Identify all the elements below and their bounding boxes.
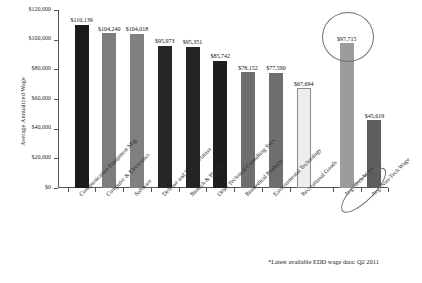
- y-axis-title: Average Annualized Wage: [19, 42, 26, 182]
- x-axis-tick: [361, 188, 362, 192]
- footnote: *Latest available EDD wage data: Q2 2011: [268, 258, 379, 265]
- bar-value-label: $95,351: [183, 39, 203, 45]
- bar-value-label: $104,018: [126, 26, 149, 32]
- y-axis-tick-label: $20,000: [32, 154, 52, 160]
- x-axis-tick: [262, 188, 263, 192]
- bar-value-label: $104,240: [98, 26, 121, 32]
- bar-value-label: $95,973: [155, 38, 175, 44]
- y-axis-tick: $120,000: [54, 10, 58, 11]
- x-axis-tick: [68, 188, 69, 192]
- y-axis-tick: $0: [54, 188, 58, 189]
- y-axis-tick-label: $100,000: [29, 35, 52, 41]
- y-axis-tick: $80,000: [54, 69, 58, 70]
- x-axis-tick: [290, 188, 291, 192]
- wage-bar-chart: Average Annualized Wage $0$20,000$40,000…: [0, 0, 422, 283]
- bar: $95,973: [158, 46, 172, 188]
- bar-value-label: $45,619: [365, 113, 385, 119]
- bar-value-label: $77,590: [266, 65, 286, 71]
- x-axis-tick: [388, 188, 389, 192]
- bar-value-label: $97,715: [337, 36, 357, 42]
- y-axis-tick-label: $120,000: [29, 6, 52, 12]
- x-axis-tick: [206, 188, 207, 192]
- bar: $45,619: [367, 120, 381, 188]
- bar: $97,715: [340, 43, 354, 188]
- bar-value-label: $110,139: [70, 17, 92, 23]
- x-axis-tick: [95, 188, 96, 192]
- x-axis-tick: [123, 188, 124, 192]
- x-axis-tick: [333, 188, 334, 192]
- bar-value-label: $85,742: [211, 53, 231, 59]
- y-axis-tick: $100,000: [54, 40, 58, 41]
- y-axis-tick: $40,000: [54, 129, 58, 130]
- x-axis-tick: [151, 188, 152, 192]
- y-axis-tick-label: $0: [45, 184, 51, 190]
- x-axis-tick: [234, 188, 235, 192]
- bar: $110,139: [75, 25, 89, 188]
- y-axis-tick-label: $40,000: [32, 124, 52, 130]
- y-axis-tick: $60,000: [54, 99, 58, 100]
- y-axis-line: [58, 10, 59, 188]
- y-axis-tick-label: $80,000: [32, 65, 52, 71]
- y-axis-tick: $20,000: [54, 158, 58, 159]
- bar-value-label: $67,694: [294, 81, 314, 87]
- bar-value-label: $78,152: [238, 65, 258, 71]
- y-axis-tick-label: $60,000: [32, 95, 52, 101]
- x-axis-tick: [179, 188, 180, 192]
